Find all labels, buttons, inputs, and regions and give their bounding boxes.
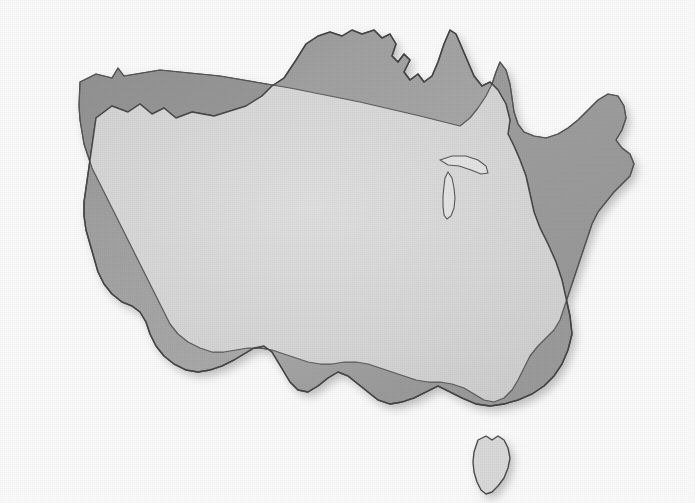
map-canvas <box>0 0 695 503</box>
map-figure <box>0 0 695 503</box>
